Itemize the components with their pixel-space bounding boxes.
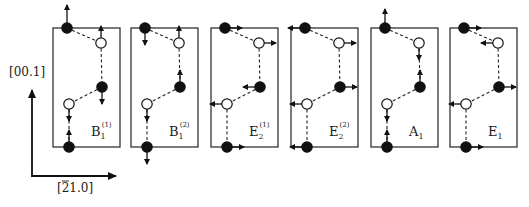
filled-atom	[302, 142, 312, 152]
filled-atom	[220, 23, 230, 33]
filled-atom	[64, 142, 74, 152]
mode-label: E2(1)	[249, 121, 270, 141]
open-atom	[222, 99, 232, 109]
panel-e1: E1	[449, 23, 517, 152]
filled-atom	[382, 142, 392, 152]
bond-line	[498, 43, 499, 87]
filled-atom	[142, 142, 152, 152]
svg-text:[21.0]: [21.0]	[57, 181, 93, 195]
unit-cell-box	[371, 28, 438, 147]
filled-atom	[335, 82, 345, 92]
filled-atom	[494, 82, 504, 92]
open-atom	[142, 99, 152, 109]
bond-line	[339, 43, 340, 87]
open-atom	[64, 99, 74, 109]
open-atom	[493, 38, 503, 48]
mode-label: A1	[408, 124, 423, 141]
open-atom	[334, 38, 344, 48]
bond-line	[259, 43, 260, 87]
filled-atom	[222, 142, 232, 152]
unit-cell-box	[131, 28, 198, 147]
open-atom	[174, 38, 184, 48]
filled-atom	[175, 82, 185, 92]
filled-atom	[461, 142, 471, 152]
filled-atom	[415, 82, 425, 92]
panel-a1: A1	[371, 9, 438, 152]
mode-diagram: [00.1] [21.0] B1(1)B1(2)E2(1)E2(2)A1E1	[0, 0, 529, 207]
panel-e2-1: E2(1)	[210, 23, 278, 152]
filled-atom	[380, 23, 390, 33]
unit-cell-box	[53, 28, 120, 147]
panel-e2-2: E2(2)	[288, 23, 358, 152]
mode-label: B1(1)	[91, 121, 112, 141]
filled-atom	[97, 82, 107, 92]
filled-atom	[255, 82, 265, 92]
filled-atom	[140, 23, 150, 33]
open-atom	[254, 38, 264, 48]
filled-atom	[62, 23, 72, 33]
filled-atom	[459, 23, 469, 33]
open-atom	[414, 38, 424, 48]
mode-label: E2(2)	[329, 121, 350, 141]
open-atom	[302, 99, 312, 109]
filled-atom	[300, 23, 310, 33]
panel-b1-2: B1(2)	[131, 23, 198, 164]
panel-b1-1: B1(1)	[53, 5, 120, 152]
open-atom	[461, 99, 471, 109]
mode-label: E1	[488, 124, 503, 141]
axis-horizontal-label: [21.0]	[57, 181, 93, 195]
bond-line	[101, 43, 102, 87]
mode-label: B1(2)	[169, 121, 190, 141]
axis-vertical-label: [00.1]	[9, 65, 45, 79]
open-atom	[382, 99, 392, 109]
open-atom	[96, 38, 106, 48]
